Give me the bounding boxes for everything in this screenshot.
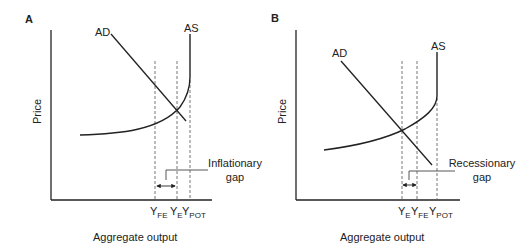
panel-a-gap-leader	[166, 170, 208, 180]
panel-b-tick-ye: YE	[398, 206, 411, 217]
panel-a-y-axis-label: Price	[32, 99, 43, 124]
panel-a-gap-label-line1: Inflationary	[208, 158, 262, 169]
panel-b-tick-yfe: YFE	[411, 206, 429, 217]
panel-b-gap-label: Recessionary gap	[448, 158, 516, 183]
panel-a-as-label: AS	[184, 23, 199, 34]
panel-b-x-axis-label: Aggregate output	[340, 232, 424, 243]
panel-a-tick-ye: YE	[170, 206, 183, 217]
panel-b-y-axis-label: Price	[277, 99, 288, 124]
panel-a-as-curve	[80, 34, 190, 135]
panel-b-as-label: AS	[431, 41, 446, 52]
panel-a-letter: A	[25, 14, 33, 25]
panel-b-ad-label: AD	[332, 48, 347, 59]
panel-a-ad-curve	[111, 34, 186, 121]
panel-b-letter: B	[271, 13, 279, 24]
panel-b-gap-label-line1: Recessionary	[448, 158, 516, 169]
panel-a-ad-label: AD	[95, 27, 110, 38]
panel-a-x-axis-label: Aggregate output	[93, 232, 177, 243]
panel-a-gap-label: Inflationary gap	[208, 158, 262, 183]
panel-b-gap-label-line2: gap	[448, 172, 516, 183]
panel-b-graph	[296, 30, 460, 200]
panel-b-as-curve	[324, 52, 437, 150]
panel-a-graph	[51, 30, 212, 200]
panel-b-ad-curve	[341, 61, 432, 165]
panel-a-tick-yfe: YFE	[150, 206, 168, 217]
panel-a-tick-ypot: YPOT	[182, 206, 206, 217]
panel-b-tick-ypot: YPOT	[429, 206, 453, 217]
panel-a-gap-label-line2: gap	[208, 172, 262, 183]
